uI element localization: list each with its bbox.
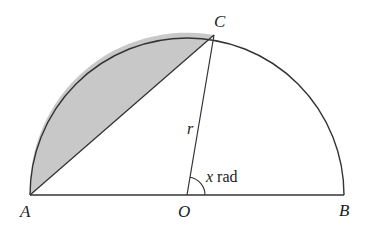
label-o: O — [178, 202, 190, 221]
semicircle-diagram: A O B C r x rad — [0, 0, 367, 227]
label-b: B — [339, 201, 350, 220]
label-angle: x rad — [205, 168, 238, 185]
label-a: A — [19, 202, 31, 221]
angle-arc — [190, 177, 205, 195]
label-radius: r — [187, 120, 194, 137]
label-c: C — [214, 12, 226, 31]
